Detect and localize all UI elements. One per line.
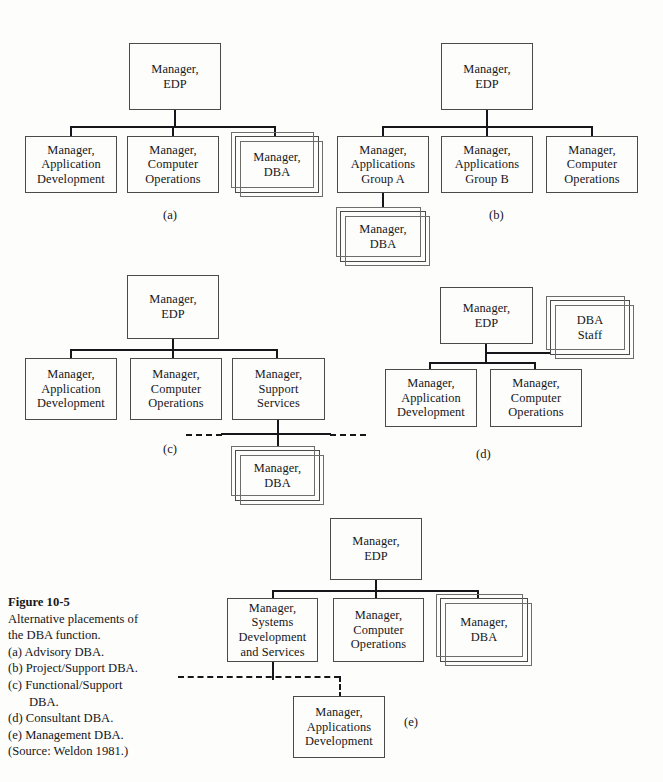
caption-item-c: (c) Functional/Support DBA. [8, 677, 194, 710]
box-b-dba: Manager,DBA [340, 211, 426, 262]
box-b-child2-label: Manager,ApplicationsGroup B [453, 143, 522, 187]
box-c-grandchild-label: Manager,DBA [252, 461, 303, 490]
box-a-application-development: Manager,ApplicationDevelopment [25, 136, 117, 193]
box-d-child1-label: Manager,ApplicationDevelopment [395, 376, 467, 420]
box-e-child2-label: Manager,ComputerOperations [349, 608, 408, 652]
box-d-root-label: Manager,EDP [461, 301, 512, 330]
box-e-systems-development-and-services: Manager,SystemsDevelopmentand Services [227, 598, 318, 662]
box-a-dba: Manager,DBA [235, 136, 319, 193]
caption-item-c-text: Functional/Support [25, 678, 122, 692]
box-e-root-label: Manager,EDP [350, 534, 401, 563]
box-b-applications-group-a: Manager,ApplicationsGroup A [337, 136, 429, 193]
caption-item-d-marker: (d) [8, 711, 23, 725]
box-b-computer-operations: Manager,ComputerOperations [546, 136, 638, 193]
box-c-computer-operations: Manager,ComputerOperations [130, 358, 222, 420]
caption-item-e-text: Management DBA. [25, 728, 124, 742]
box-e-dba: Manager,DBA [440, 598, 528, 662]
box-a-child1-label: Manager,ApplicationDevelopment [35, 143, 107, 187]
connector-d-staff-link [485, 352, 551, 354]
caption-item-b-marker: (b) [8, 661, 23, 675]
box-c-support-services: Manager,SupportServices [232, 358, 325, 420]
caption-item-a-text: Advisory DBA. [24, 645, 104, 659]
boundary-dashed-line-c-right [330, 434, 366, 436]
caption-item-c-continuation: DBA. [8, 694, 194, 711]
box-b-child1-label: Manager,ApplicationsGroup A [349, 143, 418, 187]
box-d-child2-label: Manager,ComputerOperations [506, 376, 565, 420]
box-a-root-label: Manager,EDP [149, 62, 200, 91]
box-e-computer-operations: Manager,ComputerOperations [333, 598, 424, 662]
connector-b-dba-stem [382, 193, 384, 208]
sublabel-e: (e) [404, 715, 418, 730]
box-c-child2-label: Manager,ComputerOperations [146, 367, 205, 411]
box-c-dba: Manager,DBA [235, 450, 320, 501]
box-b-root: Manager,EDP [441, 43, 533, 110]
box-b-applications-group-b: Manager,ApplicationsGroup B [441, 136, 533, 193]
boundary-dashed-line-c-left [186, 434, 222, 436]
box-b-child3-label: Manager,ComputerOperations [562, 143, 621, 187]
box-d-application-development: Manager,ApplicationDevelopment [385, 369, 477, 427]
box-c-child3-label: Manager,SupportServices [253, 367, 304, 411]
box-e-child1-label: Manager,SystemsDevelopmentand Services [237, 601, 309, 660]
box-a-root: Manager,EDP [129, 43, 221, 110]
figure-source: (Source: Weldon 1981.) [8, 743, 194, 760]
figure-number: Figure 10-5 [8, 595, 70, 609]
caption-item-a-marker: (a) [8, 645, 22, 659]
caption-item-b: (b) Project/Support DBA. [8, 660, 194, 677]
box-a-child2-label: Manager,ComputerOperations [143, 143, 202, 187]
box-e-applications-development: Manager,ApplicationsDevelopment [293, 696, 385, 758]
caption-item-e-marker: (e) [8, 728, 22, 742]
caption-item-a: (a) Advisory DBA. [8, 644, 194, 661]
connector-e-grandchild-drop [339, 676, 341, 698]
connector-d-bus [429, 362, 536, 364]
sublabel-b: (b) [489, 208, 504, 223]
box-c-root-label: Manager,EDP [147, 292, 198, 321]
box-a-child3-label: Manager,DBA [251, 150, 302, 179]
box-d-root: Manager,EDP [440, 287, 533, 344]
figure-page: Manager,EDP Manager,ApplicationDevelopme… [0, 0, 663, 782]
figure-description-line-1: Alternative placements of [8, 611, 194, 628]
sublabel-d: (d) [476, 447, 491, 462]
box-c-application-development: Manager,ApplicationDevelopment [25, 358, 117, 420]
caption-item-d-text: Consultant DBA. [26, 711, 113, 725]
box-a-computer-operations: Manager,ComputerOperations [127, 136, 219, 193]
box-e-grandchild-label: Manager,ApplicationsDevelopment [303, 705, 375, 749]
boundary-solid-span-c [221, 433, 331, 435]
box-b-grandchild-label: Manager,DBA [357, 222, 408, 251]
figure-caption: Figure 10-5 Alternative placements of th… [8, 594, 194, 760]
box-c-child1-label: Manager,ApplicationDevelopment [35, 367, 107, 411]
caption-item-c-marker: (c) [8, 678, 22, 692]
caption-item-e: (e) Management DBA. [8, 727, 194, 744]
box-c-root: Manager,EDP [127, 275, 219, 339]
caption-item-d: (d) Consultant DBA. [8, 710, 194, 727]
boundary-dashed-line-e [178, 676, 340, 678]
connector-c-dba-stem [277, 420, 279, 447]
box-d-staff-label: DBAStaff [575, 313, 605, 342]
box-e-root: Manager,EDP [330, 518, 422, 580]
box-e-child3-label: Manager,DBA [458, 615, 509, 644]
box-d-computer-operations: Manager,ComputerOperations [490, 369, 582, 427]
box-b-root-label: Manager,EDP [461, 62, 512, 91]
box-d-dba-staff: DBAStaff [550, 300, 630, 355]
sublabel-c: (c) [163, 442, 177, 457]
sublabel-a: (a) [163, 208, 177, 223]
caption-item-b-text: Project/Support DBA. [26, 661, 138, 675]
figure-description-line-2: the DBA function. [8, 627, 194, 644]
